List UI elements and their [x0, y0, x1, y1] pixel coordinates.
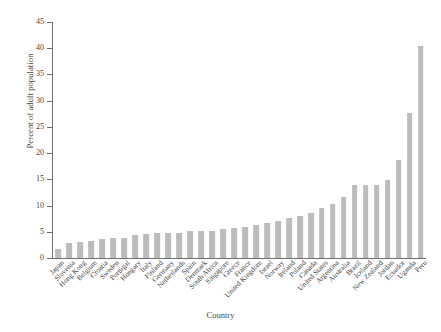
bar-slot — [415, 22, 426, 258]
bar-slot — [327, 22, 338, 258]
y-tick-mark — [47, 179, 52, 180]
y-tick-mark — [47, 232, 52, 233]
bar — [165, 233, 171, 258]
bar-slot — [108, 22, 119, 258]
bar — [418, 46, 424, 258]
bar-slot — [97, 22, 108, 258]
bar — [78, 242, 84, 258]
bar — [143, 234, 149, 258]
bar-slot — [360, 22, 371, 258]
bar — [220, 229, 226, 258]
bar — [319, 208, 325, 258]
y-tick-label: 10 — [22, 202, 44, 210]
bar-slot — [305, 22, 316, 258]
bar-slot — [185, 22, 196, 258]
bar — [209, 231, 215, 258]
bar — [264, 223, 270, 258]
bar — [110, 238, 116, 258]
bar-slot — [119, 22, 130, 258]
x-axis-title: Country — [0, 310, 441, 320]
bar — [56, 249, 62, 258]
bar-slot — [152, 22, 163, 258]
bar-slot — [261, 22, 272, 258]
bar-slot — [218, 22, 229, 258]
y-tick-mark — [47, 101, 52, 102]
bar — [286, 218, 292, 258]
bar — [396, 160, 402, 258]
y-tick-label: 25 — [22, 123, 44, 131]
y-tick-label: 40 — [22, 44, 44, 52]
bar-slot — [141, 22, 152, 258]
y-tick-mark — [47, 48, 52, 49]
bar — [89, 241, 95, 258]
bar-slot — [207, 22, 218, 258]
bar — [341, 197, 347, 258]
bar — [100, 239, 106, 258]
bar — [352, 185, 358, 258]
bar — [253, 225, 259, 258]
bar-chart-figure: Percent of adult population 051015202530… — [0, 0, 441, 332]
bar-slot — [240, 22, 251, 258]
y-tick-label: 45 — [22, 18, 44, 26]
bar-slot — [86, 22, 97, 258]
bar — [67, 243, 73, 258]
bar-slot — [64, 22, 75, 258]
y-tick-label: 20 — [22, 149, 44, 157]
bar-slot — [250, 22, 261, 258]
bar — [275, 221, 281, 258]
plot-area: 051015202530354045 — [52, 22, 426, 258]
bar — [154, 233, 160, 258]
y-tick-label: 30 — [22, 97, 44, 105]
bar-slot — [382, 22, 393, 258]
bar — [330, 204, 336, 258]
y-tick-mark — [47, 127, 52, 128]
bar — [308, 213, 314, 258]
y-tick-label: 0 — [22, 254, 44, 262]
bar — [121, 238, 127, 258]
bar — [132, 235, 138, 258]
bar-slot — [294, 22, 305, 258]
bar-slot — [53, 22, 64, 258]
bar-slot — [196, 22, 207, 258]
bar-slot — [163, 22, 174, 258]
bar-slot — [283, 22, 294, 258]
bar — [231, 228, 237, 258]
bar — [187, 231, 193, 258]
bar — [385, 180, 391, 258]
bar — [374, 185, 380, 258]
bar-slot — [229, 22, 240, 258]
bar-slot — [316, 22, 327, 258]
bar-slot — [75, 22, 86, 258]
bar-slot — [393, 22, 404, 258]
bar — [176, 233, 182, 258]
y-tick-label: 35 — [22, 70, 44, 78]
bar — [363, 185, 369, 258]
bar — [198, 231, 204, 258]
bar — [297, 216, 303, 258]
bar-slot — [404, 22, 415, 258]
bars-group — [53, 22, 426, 258]
y-tick-label: 5 — [22, 228, 44, 236]
bar-slot — [130, 22, 141, 258]
bar-slot — [338, 22, 349, 258]
bar-slot — [272, 22, 283, 258]
y-tick-mark — [47, 153, 52, 154]
y-tick-label: 15 — [22, 175, 44, 183]
bar — [407, 113, 413, 258]
bar-slot — [371, 22, 382, 258]
y-tick-mark — [47, 206, 52, 207]
y-tick-mark — [47, 22, 52, 23]
bar-slot — [174, 22, 185, 258]
bar-slot — [349, 22, 360, 258]
bar — [242, 227, 248, 258]
y-tick-mark — [47, 74, 52, 75]
